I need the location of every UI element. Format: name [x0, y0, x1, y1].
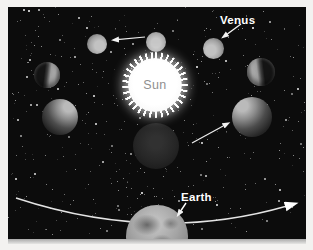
- earth-label: Earth: [181, 191, 212, 203]
- venus-phases-diagram: Venus Sun Earth: [0, 0, 313, 250]
- starfield-panel: Venus Sun Earth: [8, 7, 306, 239]
- venus-orbit-direction-arrow-top: [117, 37, 145, 40]
- direction-arrows-layer: [8, 7, 306, 239]
- panel-shadow: [8, 239, 306, 244]
- venus-label: Venus: [220, 14, 255, 26]
- venus-orbit-direction-arrow-inner: [192, 125, 225, 143]
- earth-label-pointer-arrow: [180, 203, 186, 212]
- sun-label: Sun: [128, 78, 182, 92]
